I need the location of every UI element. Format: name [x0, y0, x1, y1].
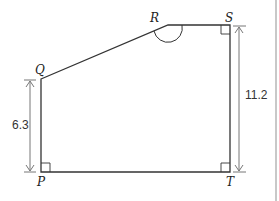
vertex-label-p: P	[36, 175, 46, 189]
length-label-st: 11.2	[245, 88, 268, 102]
right-angle-p	[41, 163, 50, 172]
angle-arc-r	[154, 25, 182, 42]
vertex-label-q: Q	[35, 63, 45, 77]
length-label-pq: 6.3	[12, 118, 29, 132]
vertex-label-s: S	[225, 11, 233, 25]
vertex-label-r: R	[149, 11, 159, 25]
vertex-label-t: T	[226, 175, 235, 189]
right-angle-t	[221, 163, 230, 172]
diagram-canvas: 6.3 11.2 Q R S P T	[0, 0, 279, 201]
right-angle-s	[221, 25, 230, 34]
pentagon-pqrst	[41, 25, 230, 172]
